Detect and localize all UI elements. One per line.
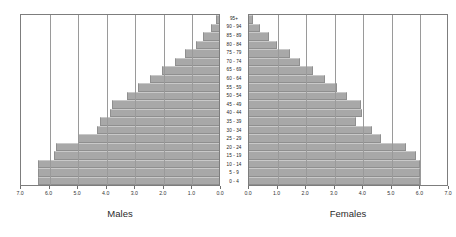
age-group-label: 75 - 79 <box>220 48 248 57</box>
bar <box>249 117 356 126</box>
bar-row <box>249 24 447 33</box>
bar-row <box>21 143 219 152</box>
axis-tick-label: 2.0 <box>159 190 166 196</box>
bar-row <box>249 83 447 92</box>
axis-tick-label: 7.0 <box>444 190 451 196</box>
age-group-label: 65 - 69 <box>220 66 248 75</box>
axis-tick-label: 1.0 <box>273 190 280 196</box>
bar <box>249 24 260 33</box>
age-group-label: 85 - 89 <box>220 31 248 40</box>
axis-tick <box>220 186 221 189</box>
axis-tick <box>134 186 135 189</box>
axis-tick-label: 5.0 <box>387 190 394 196</box>
age-group-label: 5 - 9 <box>220 169 248 178</box>
bar <box>162 66 219 75</box>
axis-tick <box>334 186 335 189</box>
bar-row <box>21 15 219 24</box>
axis-tick <box>391 186 392 189</box>
age-group-label: 40 - 44 <box>220 109 248 118</box>
bar-row <box>21 168 219 177</box>
bar <box>249 49 290 58</box>
bar <box>175 58 219 67</box>
bar-row <box>21 41 219 50</box>
gridline <box>107 15 108 185</box>
bar-row <box>249 58 447 67</box>
bar <box>249 75 325 84</box>
age-group-label: 35 - 39 <box>220 117 248 126</box>
axis-tick-label: 4.0 <box>102 190 109 196</box>
bar <box>196 41 219 50</box>
bar-row <box>21 160 219 169</box>
bar-rows-males <box>21 15 219 185</box>
bar-row <box>249 117 447 126</box>
bar-row <box>249 151 447 160</box>
bar <box>78 134 219 143</box>
bar-row <box>249 49 447 58</box>
bar-row <box>21 32 219 41</box>
axis-tick <box>163 186 164 189</box>
bar <box>203 32 219 41</box>
age-group-axis: 95+90 - 9485 - 8980 - 8475 - 7970 - 7465… <box>220 14 248 186</box>
bar <box>127 92 219 101</box>
axis-tick-label: 2.0 <box>302 190 309 196</box>
age-group-label: 10 - 14 <box>220 160 248 169</box>
age-group-label: 15 - 19 <box>220 152 248 161</box>
bar-row <box>249 126 447 135</box>
gridline <box>164 15 165 185</box>
bar <box>249 143 406 152</box>
bar <box>249 83 337 92</box>
bar <box>185 49 219 58</box>
bar-row <box>249 92 447 101</box>
bar <box>97 126 219 135</box>
axis-tick-label: 3.0 <box>131 190 138 196</box>
gridline <box>335 15 336 185</box>
axis-tick-label: 0.0 <box>244 190 251 196</box>
axis-tick <box>277 186 278 189</box>
bar <box>249 100 361 109</box>
axis-tick <box>305 186 306 189</box>
bar <box>249 58 300 67</box>
series-caption-males: Males <box>20 208 220 219</box>
age-group-label: 25 - 29 <box>220 134 248 143</box>
gridline <box>192 15 193 185</box>
age-group-label: 70 - 74 <box>220 57 248 66</box>
age-group-label: 45 - 49 <box>220 100 248 109</box>
bar-row <box>21 83 219 92</box>
age-group-label: 55 - 59 <box>220 83 248 92</box>
age-group-label: 80 - 84 <box>220 40 248 49</box>
bar-row <box>249 134 447 143</box>
bar-row <box>21 58 219 67</box>
bar <box>211 24 219 33</box>
axis-tick <box>106 186 107 189</box>
gridline <box>50 15 51 185</box>
chart-panel-males <box>20 14 220 186</box>
population-pyramid-chart: 95+90 - 9485 - 8980 - 8475 - 7970 - 7465… <box>0 0 456 237</box>
bar <box>56 143 219 152</box>
age-group-label: 50 - 54 <box>220 91 248 100</box>
axis-tick-label: 6.0 <box>416 190 423 196</box>
axis-tick <box>49 186 50 189</box>
axis-tick-label: 1.0 <box>188 190 195 196</box>
axis-tick-label: 6.0 <box>45 190 52 196</box>
bar-row <box>21 75 219 84</box>
bar <box>100 117 219 126</box>
bar-row <box>21 100 219 109</box>
age-group-label: 95+ <box>220 14 248 23</box>
gridline <box>392 15 393 185</box>
bar-row <box>249 177 447 186</box>
x-axis-males: 7.06.05.04.03.02.01.00.0 <box>20 186 220 202</box>
bar <box>249 41 277 50</box>
bar-row <box>249 168 447 177</box>
series-caption-females: Females <box>248 208 448 219</box>
gridline <box>78 15 79 185</box>
chart-panel-females <box>248 14 448 186</box>
bar <box>216 15 219 24</box>
bar-row <box>21 117 219 126</box>
bar-rows-females <box>249 15 447 185</box>
bar <box>249 92 347 101</box>
bar <box>138 83 219 92</box>
axis-tick <box>77 186 78 189</box>
age-group-label: 90 - 94 <box>220 23 248 32</box>
x-axis-females: 0.01.02.03.04.05.06.07.0 <box>248 186 448 202</box>
axis-tick-label: 4.0 <box>359 190 366 196</box>
